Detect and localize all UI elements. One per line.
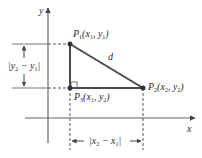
point-p2 — [141, 86, 146, 91]
point-p1 — [68, 42, 73, 47]
label-p1: P1(x1, y1) — [73, 29, 109, 40]
x-axis-label: x — [187, 124, 191, 134]
vertical-dimension-label: |y2 − y1| — [8, 61, 40, 72]
distance-label: d — [108, 52, 113, 62]
horizontal-dimension-label: |x2 − x1| — [89, 136, 121, 147]
y-axis-label: y — [39, 6, 43, 16]
point-p3 — [68, 86, 73, 91]
axes — [25, 8, 195, 143]
label-p2: P2(x2, y2) — [148, 82, 184, 93]
right-triangle — [70, 44, 143, 88]
label-p3: P3(x1, y2) — [74, 92, 110, 103]
hypotenuse — [70, 44, 143, 88]
